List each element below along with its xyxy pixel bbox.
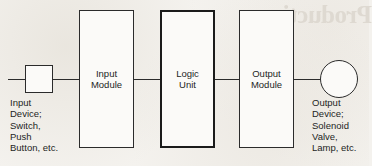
connector-line-start bbox=[8, 79, 26, 80]
output-device-caption: Output Device; Solenoid Valve, Lamp, etc… bbox=[312, 97, 356, 153]
output-device-symbol bbox=[320, 60, 358, 98]
connector-module-to-logic bbox=[134, 79, 161, 80]
logic-unit-label: Logic Unit bbox=[162, 68, 213, 90]
output-module-block: Output Module bbox=[239, 10, 294, 148]
logic-unit-block: Logic Unit bbox=[160, 10, 215, 148]
input-module-block: Input Module bbox=[79, 10, 134, 148]
input-module-label: Input Module bbox=[80, 68, 133, 90]
input-device-caption: Input Device; Switch, Push Button, etc. bbox=[10, 97, 58, 153]
output-module-label: Output Module bbox=[240, 68, 293, 90]
connector-output-to-device bbox=[294, 79, 321, 80]
connector-logic-to-output bbox=[215, 79, 240, 80]
input-device-symbol bbox=[25, 65, 53, 93]
connector-input-to-module bbox=[53, 79, 80, 80]
